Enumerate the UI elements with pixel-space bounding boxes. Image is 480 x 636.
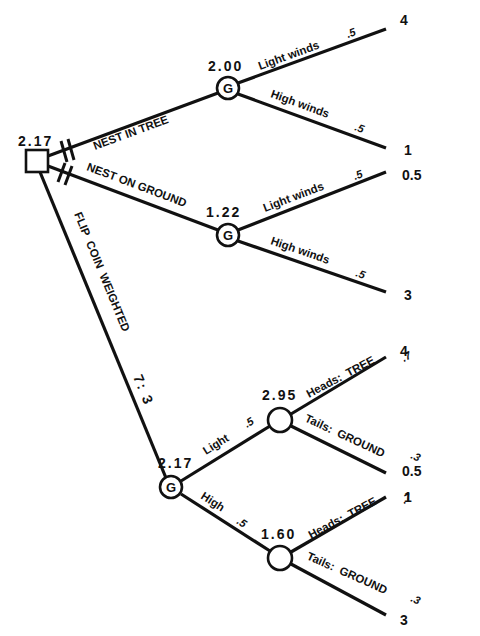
payoff-g1-light: 4 [400, 12, 408, 28]
edge-flip-coin [40, 172, 166, 478]
prob-295-tails: .3 [409, 449, 422, 464]
g-symbol-icon: G [166, 480, 176, 495]
g-symbol-icon: G [223, 228, 233, 243]
coin-high-value: 1.60 [261, 526, 296, 542]
payoff-g2-light: 0.5 [402, 167, 422, 183]
payoff-160-tails: 3 [400, 612, 408, 628]
prob-g1-light: .5 [345, 25, 359, 40]
prob-g1-high: .5 [353, 121, 367, 136]
label-160-heads: Heads: TREE [306, 495, 379, 541]
label-295-heads: Heads: TREE [304, 354, 377, 400]
payoff-g1-high: 1 [404, 142, 412, 158]
coin-light-value: 2.95 [262, 387, 297, 403]
g2-value: 1.22 [206, 204, 241, 220]
decision-tree-diagram: 2.17 G 2.00 G 1.22 G 2.17 2.95 1.60 NEST… [0, 0, 480, 636]
edge-g1-light-winds [238, 29, 386, 83]
payoff-295-tails: 0.5 [402, 463, 422, 479]
chance-node-coin-high [268, 546, 292, 570]
g3-value: 2.17 [158, 455, 193, 471]
prob-g3-light: .5 [242, 414, 257, 430]
payoff-g2-high: 3 [404, 287, 412, 303]
prob-g3-high: .5 [235, 515, 250, 531]
label-nest-in-tree: NEST IN TREE [92, 113, 171, 152]
edge-g2-light-winds [238, 172, 386, 230]
root-value: 2.17 [18, 133, 53, 149]
chance-node-coin-light [268, 408, 292, 432]
payoff-295-heads: 4 [400, 343, 408, 359]
label-160-tails: Tails: GROUND [305, 550, 389, 596]
payoff-160-heads: 1 [404, 489, 412, 505]
prob-g2-high: .5 [354, 267, 367, 282]
edge-nest-on-ground [48, 166, 218, 230]
prune-mark-nest-in-tree [61, 139, 74, 162]
g-symbol-icon: G [223, 81, 233, 96]
prob-160-tails: .3 [409, 592, 422, 607]
g1-value: 2.00 [208, 58, 243, 74]
decision-node-root [26, 150, 48, 172]
